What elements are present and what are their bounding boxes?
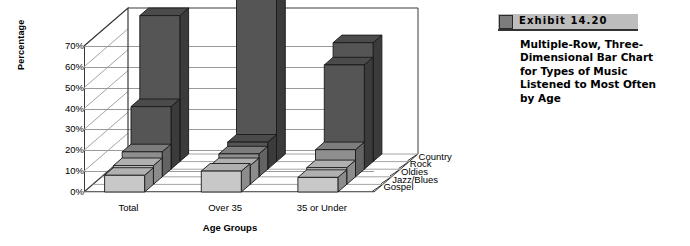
y-axis-tick-label: 70% (8, 41, 84, 51)
y-axis-tick-label: 50% (8, 83, 84, 93)
y-axis-tick-label: 60% (8, 62, 84, 72)
bar-top (333, 35, 382, 43)
plot-area (84, 46, 374, 192)
x-axis-tick-label: Total (88, 202, 168, 213)
exhibit-number: Exhibit 14.20 (519, 15, 608, 26)
y-axis-tick-label: 20% (8, 145, 84, 155)
y-axis-tick-label: 10% (8, 166, 84, 176)
y-axis-ticks: 0%10%20%30%40%50%60%70% (0, 0, 84, 246)
gridline (84, 150, 374, 151)
gridline (84, 46, 374, 47)
bar-side (373, 35, 382, 162)
x-axis-title: Age Groups (150, 222, 310, 233)
exhibit-marker-icon (499, 15, 513, 29)
gridline (84, 67, 374, 68)
exhibit-caption: Multiple-Row, Three-Dimensional Bar Char… (520, 38, 670, 105)
gridline-depth (84, 8, 128, 46)
gridline (84, 109, 374, 110)
chart-panel: Percentage 0%10%20%30%40%50%60%70% Age G… (0, 0, 470, 246)
x-axis-line (84, 191, 374, 192)
y-axis-tick-label: 0% (8, 187, 84, 197)
gridline (84, 129, 374, 130)
y-axis-tick-label: 30% (8, 124, 84, 134)
exhibit-page: Percentage 0%10%20%30%40%50%60%70% Age G… (0, 0, 690, 246)
exhibit-header-bar: Exhibit 14.20 (498, 14, 638, 31)
x-axis-tick-label: Over 35 (185, 202, 265, 213)
y-axis-tick-label: 40% (8, 104, 84, 114)
exhibit-block: Exhibit 14.20 Multiple-Row, Three-Dimens… (498, 0, 680, 246)
gridline (84, 171, 374, 172)
y-axis-line (84, 46, 85, 192)
series-label-country: Country (419, 152, 452, 162)
bar-top (140, 8, 189, 16)
x-axis-tick-label: 35 or Under (282, 202, 362, 213)
gridline (84, 88, 374, 89)
